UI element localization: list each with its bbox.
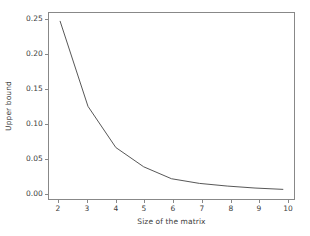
xtick-mark <box>202 200 203 203</box>
xtick-label-9: 9 <box>257 204 262 213</box>
xtick-mark <box>259 200 260 203</box>
plot-axes-area <box>48 12 295 200</box>
xtick-label-5: 5 <box>142 204 147 213</box>
x-axis-label: Size of the matrix <box>48 217 295 226</box>
xtick-label-6: 6 <box>171 204 176 213</box>
ytick-mark <box>45 194 48 195</box>
ytick-label-025: 0.25 <box>26 15 43 23</box>
ytick-label-010: 0.10 <box>26 120 43 128</box>
ytick-label-020: 0.20 <box>26 50 43 58</box>
xtick-mark <box>87 200 88 203</box>
xtick-mark <box>231 200 232 203</box>
xtick-label-3: 3 <box>85 204 90 213</box>
ytick-label-015: 0.15 <box>26 85 43 93</box>
ytick-mark <box>45 124 48 125</box>
ytick-mark <box>45 89 48 90</box>
ytick-mark <box>45 54 48 55</box>
ytick-label-005: 0.05 <box>26 155 43 163</box>
xtick-mark <box>58 200 59 203</box>
xtick-label-8: 8 <box>229 204 234 213</box>
xtick-label-2: 2 <box>56 204 61 213</box>
chart-figure: 0.25 0.20 0.15 0.10 0.05 0.00 2 3 4 5 6 … <box>0 0 310 236</box>
xtick-mark <box>144 200 145 203</box>
ytick-label-000: 0.00 <box>26 190 43 198</box>
y-axis-label: Upper bound <box>4 81 13 131</box>
xtick-mark <box>173 200 174 203</box>
xtick-label-4: 4 <box>114 204 119 213</box>
upper-bound-line-series <box>60 21 283 189</box>
ytick-mark <box>45 159 48 160</box>
xtick-mark <box>288 200 289 203</box>
ytick-mark <box>45 19 48 20</box>
xtick-mark <box>116 200 117 203</box>
xtick-label-7: 7 <box>200 204 205 213</box>
line-chart-svg <box>49 13 294 199</box>
xtick-label-10: 10 <box>283 204 293 213</box>
